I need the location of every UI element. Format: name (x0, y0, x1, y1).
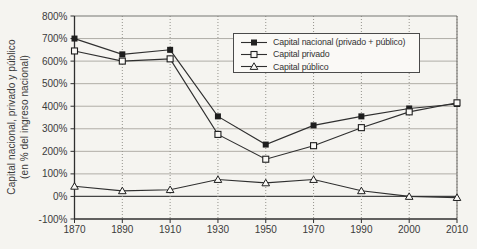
x-tick-labels: 187018901910193019501970199020002010 (63, 224, 468, 235)
legend-label: Capital privado (273, 49, 329, 59)
y-tick-label: 200% (42, 146, 68, 157)
legend-label: Capital nacional (privado + público) (273, 37, 405, 47)
y-tick-labels: 800%700%600%500%400%300%200%100%0%-100% (39, 11, 68, 225)
legend-item-capital-publico: Capital público (239, 61, 417, 73)
y-tick-label: 600% (42, 56, 68, 67)
legend: Capital nacional (privado + público) Cap… (233, 33, 420, 73)
x-tick-label: 1870 (63, 224, 86, 235)
x-tick-label: 1990 (350, 224, 373, 235)
x-tick-label: 1950 (255, 224, 278, 235)
y-tick-label: 0% (53, 191, 68, 202)
y-tick-label: 100% (42, 168, 68, 179)
x-tick-label: 1910 (159, 224, 182, 235)
y-axis-title-line1: Capital nacional, privado y público (6, 14, 19, 220)
y-tick-label: 500% (42, 78, 68, 89)
x-tick-label: 1890 (111, 224, 134, 235)
y-tick-label: -100% (39, 214, 68, 225)
filled-square-icon (239, 38, 269, 47)
legend-item-capital-privado: Capital privado (239, 48, 417, 60)
x-tick-label: 1970 (302, 224, 325, 235)
legend-item-capital-nacional: Capital nacional (privado + público) (239, 36, 417, 48)
y-tick-label: 400% (42, 101, 68, 112)
x-tick-label: 2010 (446, 224, 469, 235)
legend-label: Capital público (273, 62, 328, 72)
y-tick-label: 700% (42, 33, 68, 44)
x-tick-label: 1930 (207, 224, 230, 235)
capital-chart-figure: 800%700%600%500%400%300%200%100%0%-100%1… (0, 0, 477, 249)
y-axis-title: Capital nacional, privado y público (en … (6, 14, 32, 220)
y-tick-label: 300% (42, 123, 68, 134)
x-tick-label: 2000 (398, 224, 421, 235)
y-tick-label: 800% (42, 11, 68, 22)
open-square-icon (239, 50, 269, 59)
open-triangle-icon (239, 62, 269, 71)
y-axis-title-line2: (en % del ingreso nacional) (19, 14, 32, 220)
